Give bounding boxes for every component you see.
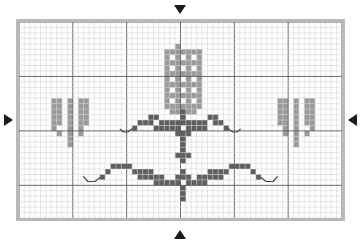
- stitch-cell-light-stitch: [78, 120, 83, 125]
- stitch-cell-dark-stitch: [229, 164, 234, 169]
- stitch-cell-dark-stitch: [186, 120, 191, 125]
- stitch-cell-light-stitch: [283, 98, 288, 103]
- stitch-cell-light-stitch: [175, 44, 180, 49]
- stitch-cell-light-stitch: [181, 49, 186, 54]
- stitch-cell-light-stitch: [164, 66, 169, 71]
- stitch-cell-dark-stitch: [164, 125, 169, 130]
- stitch-cell-light-stitch: [283, 131, 288, 136]
- stitch-cell-light-stitch: [197, 93, 202, 98]
- stitch-cell-light-stitch: [197, 98, 202, 103]
- stitch-cell-light-stitch: [84, 115, 89, 120]
- stitch-cell-dark-stitch: [191, 180, 196, 185]
- stitch-cell-light-stitch: [57, 115, 62, 120]
- stitch-cell-light-stitch: [283, 120, 288, 125]
- stitch-cell-light-stitch: [175, 71, 180, 76]
- stitch-cell-dark-stitch: [202, 120, 207, 125]
- stitch-cell-dark-stitch: [154, 125, 159, 130]
- stitch-cell-dark-stitch: [164, 180, 169, 185]
- stitch-cell-light-stitch: [78, 131, 83, 136]
- stitch-cell-light-stitch: [170, 93, 175, 98]
- stitch-cell-light-stitch: [164, 71, 169, 76]
- stitch-cell-light-stitch: [164, 104, 169, 109]
- stitch-cell-dark-stitch: [218, 120, 223, 125]
- stitch-cell-dark-stitch: [164, 120, 169, 125]
- stitch-cell-dark-stitch: [148, 120, 153, 125]
- stitch-cell-dark-stitch: [250, 169, 255, 174]
- center-marker-right-icon: [348, 114, 357, 126]
- stitch-cell-dark-stitch: [207, 169, 212, 174]
- stitch-cell-light-stitch: [304, 115, 309, 120]
- stitch-cell-light-stitch: [294, 125, 299, 130]
- stitch-cell-dark-stitch: [181, 174, 186, 179]
- stitch-cell-dark-stitch: [191, 120, 196, 125]
- stitch-cell-light-stitch: [84, 98, 89, 103]
- stitch-cell-dark-stitch: [213, 174, 218, 179]
- stitch-cell-light-stitch: [186, 55, 191, 60]
- stitch-cell-light-stitch: [57, 104, 62, 109]
- stitch-cell-light-stitch: [175, 109, 180, 114]
- stitch-cell-dark-stitch: [137, 120, 142, 125]
- stitch-cell-light-stitch: [277, 104, 282, 109]
- stitch-cell-dark-stitch: [100, 174, 105, 179]
- stitch-cell-dark-stitch: [159, 174, 164, 179]
- stitch-cell-dark-stitch: [234, 164, 239, 169]
- stitch-cell-dark-stitch: [170, 180, 175, 185]
- center-marker-bottom-icon: [174, 230, 186, 239]
- stitch-cell-dark-stitch: [121, 164, 126, 169]
- stitch-cell-light-stitch: [175, 104, 180, 109]
- stitch-cell-dark-stitch: [154, 174, 159, 179]
- stitch-cell-dark-stitch: [224, 125, 229, 130]
- stitch-cell-light-stitch: [277, 115, 282, 120]
- stitch-cell-light-stitch: [175, 82, 180, 87]
- stitch-cell-light-stitch: [67, 109, 72, 114]
- stitch-cell-light-stitch: [84, 109, 89, 114]
- stitch-cell-light-stitch: [164, 76, 169, 81]
- stitch-cell-dark-stitch: [245, 164, 250, 169]
- stitch-cell-light-stitch: [277, 109, 282, 114]
- stitch-cell-dark-stitch: [197, 174, 202, 179]
- stitch-cell-dark-stitch: [175, 153, 180, 158]
- stitch-cell-light-stitch: [304, 109, 309, 114]
- stitch-cell-light-stitch: [310, 125, 315, 130]
- stitch-cell-light-stitch: [294, 131, 299, 136]
- stitch-cell-dark-stitch: [159, 180, 164, 185]
- stitch-cell-dark-stitch: [202, 180, 207, 185]
- stitch-cell-light-stitch: [170, 71, 175, 76]
- stitch-cell-light-stitch: [310, 120, 315, 125]
- stitch-cell-dark-stitch: [175, 180, 180, 185]
- stitch-cell-dark-stitch: [213, 115, 218, 120]
- stitch-cell-dark-stitch: [181, 191, 186, 196]
- stitch-cell-light-stitch: [67, 125, 72, 130]
- stitch-cell-dark-stitch: [105, 169, 110, 174]
- stitch-cell-dark-stitch: [213, 169, 218, 174]
- stitch-cell-light-stitch: [181, 71, 186, 76]
- stitch-cell-light-stitch: [67, 142, 72, 147]
- stitch-cell-light-stitch: [304, 120, 309, 125]
- stitch-cell-dark-stitch: [202, 125, 207, 130]
- stitch-cell-light-stitch: [84, 120, 89, 125]
- stitch-cell-light-stitch: [57, 131, 62, 136]
- stitch-cell-light-stitch: [304, 98, 309, 103]
- stitch-cell-dark-stitch: [181, 153, 186, 158]
- stitch-cell-light-stitch: [67, 104, 72, 109]
- stitch-cell-light-stitch: [51, 125, 56, 130]
- stitch-cell-light-stitch: [170, 60, 175, 65]
- stitch-cell-light-stitch: [175, 98, 180, 103]
- stitch-cell-light-stitch: [186, 93, 191, 98]
- stitch-cell-light-stitch: [310, 109, 315, 114]
- stitch-cell-light-stitch: [197, 87, 202, 92]
- stitch-cell-light-stitch: [294, 109, 299, 114]
- stitch-cell-light-stitch: [51, 104, 56, 109]
- stitch-cell-dark-stitch: [148, 174, 153, 179]
- stitch-cell-dark-stitch: [186, 125, 191, 130]
- stitch-cell-light-stitch: [164, 87, 169, 92]
- stitch-cell-dark-stitch: [186, 174, 191, 179]
- stitch-cell-light-stitch: [67, 120, 72, 125]
- stitch-cell-dark-stitch: [154, 180, 159, 185]
- stitch-cell-dark-stitch: [159, 120, 164, 125]
- stitch-cell-light-stitch: [181, 93, 186, 98]
- stitch-cell-light-stitch: [181, 104, 186, 109]
- stitch-cell-dark-stitch: [170, 120, 175, 125]
- stitch-cell-dark-stitch: [181, 169, 186, 174]
- stitch-cell-light-stitch: [175, 49, 180, 54]
